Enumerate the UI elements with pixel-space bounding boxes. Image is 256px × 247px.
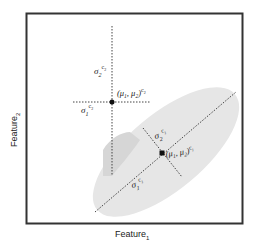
cluster-2-mean-point [110, 100, 115, 105]
gaussian-clusters-diagram: σ2c2 σ1c2 (μ1, μ2)c2 σ2c1 σ1c1 (μ1, μ2)c… [0, 0, 256, 247]
cluster-2-sigma2-label: σ2c2 [94, 64, 106, 78]
cluster-2-sigma1-label: σ1c2 [81, 103, 93, 117]
cluster-1-mean-point [160, 151, 165, 156]
x-axis-label: Feature1 [115, 229, 150, 241]
y-axis-label: Feature2 [9, 112, 21, 147]
cluster-2-mean-label: (μ1, μ2)c2 [117, 87, 146, 99]
